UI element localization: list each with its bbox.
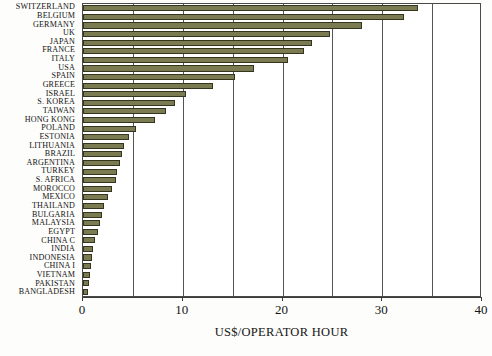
bar: [83, 126, 136, 132]
bar-row: [83, 270, 480, 279]
bar-row: [83, 142, 480, 151]
bar-row: [83, 4, 480, 13]
x-tick: [282, 297, 283, 301]
bar-row: [83, 184, 480, 193]
bar: [83, 237, 95, 243]
bar-row: [83, 124, 480, 133]
bar: [83, 31, 330, 37]
bar: [83, 143, 124, 149]
bar: [83, 40, 312, 46]
x-tick-label: 20: [275, 303, 288, 316]
bar: [83, 203, 104, 209]
bar: [83, 83, 213, 89]
bar-row: [83, 288, 480, 297]
x-tick-label: 10: [175, 303, 188, 316]
category-label: EGYPT: [0, 228, 78, 237]
bars-layer: [83, 4, 480, 296]
bar: [83, 100, 175, 106]
category-label: ESTONIA: [0, 133, 78, 142]
bar-row: [83, 219, 480, 228]
bar-row: [83, 245, 480, 254]
bar-row: [83, 81, 480, 90]
bar: [83, 5, 418, 11]
bar-row: [83, 210, 480, 219]
plot-area: [82, 3, 481, 297]
x-tick: [481, 297, 482, 301]
bar: [83, 48, 304, 54]
bar: [83, 289, 88, 295]
bar-row: [83, 202, 480, 211]
bar-row: [83, 56, 480, 65]
bar: [83, 212, 102, 218]
x-tick: [182, 297, 183, 301]
bar: [83, 108, 166, 114]
bar-row: [83, 159, 480, 168]
bar: [83, 177, 116, 183]
bar: [83, 263, 91, 269]
bar: [83, 14, 404, 20]
category-label: BELGIUM: [0, 12, 78, 21]
bar: [83, 254, 92, 260]
bar: [83, 186, 112, 192]
bar: [83, 229, 98, 235]
bar-row: [83, 253, 480, 262]
bar: [83, 65, 254, 71]
bar-row: [83, 236, 480, 245]
bar-row: [83, 116, 480, 125]
bar-chart: SWITZERLANDBELGIUMGERMANYUKJAPANFRANCEIT…: [0, 0, 492, 356]
x-tick-label: 40: [475, 303, 488, 316]
bar: [83, 117, 155, 123]
bar: [83, 272, 90, 278]
bar-row: [83, 167, 480, 176]
x-tick-label: 30: [375, 303, 388, 316]
bar: [83, 91, 186, 97]
bar-row: [83, 176, 480, 185]
bar: [83, 280, 89, 286]
x-tick: [381, 297, 382, 301]
bar-row: [83, 47, 480, 56]
bar-row: [83, 99, 480, 108]
bar: [83, 74, 235, 80]
category-label: BANGLADESH: [0, 288, 78, 297]
bar-row: [83, 73, 480, 82]
bar-row: [83, 150, 480, 159]
bar: [83, 160, 120, 166]
bar: [83, 57, 288, 63]
bar: [83, 246, 93, 252]
bar-row: [83, 279, 480, 288]
bar-row: [83, 262, 480, 271]
bar-row: [83, 193, 480, 202]
bar-row: [83, 90, 480, 99]
bar-row: [83, 30, 480, 39]
bar: [83, 151, 122, 157]
bar: [83, 134, 129, 140]
bar-row: [83, 227, 480, 236]
bar-row: [83, 133, 480, 142]
x-tick-label: 0: [79, 303, 86, 316]
bar-row: [83, 107, 480, 116]
bar-row: [83, 38, 480, 47]
bar-row: [83, 21, 480, 30]
category-axis: SWITZERLANDBELGIUMGERMANYUKJAPANFRANCEIT…: [0, 3, 78, 297]
bar: [83, 22, 362, 28]
bar: [83, 220, 100, 226]
bar-row: [83, 64, 480, 73]
bar: [83, 169, 117, 175]
x-tick: [82, 297, 83, 301]
bar: [83, 194, 108, 200]
bar-row: [83, 13, 480, 22]
x-axis-title: US$/OPERATOR HOUR: [82, 325, 481, 340]
